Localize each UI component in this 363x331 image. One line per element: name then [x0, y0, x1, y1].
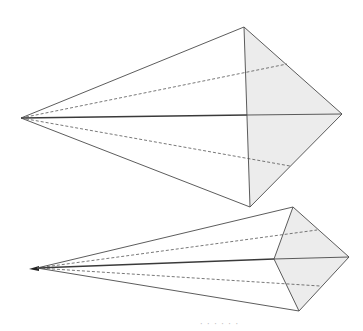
diagram-canvas: [0, 0, 363, 331]
upper-edge-apex-bottom: [21, 118, 250, 207]
lower-pyramid: [29, 207, 349, 311]
upper-axis-line: [21, 115, 247, 118]
upper-pyramid: [21, 27, 342, 207]
upper-edge-apex-top: [21, 27, 244, 118]
lower-hidden-edge-bottom: [37, 268, 320, 286]
lower-edge-apex-top: [37, 207, 293, 268]
caption-fragment: · · · · · ·: [200, 320, 239, 329]
upper-base-face: [244, 27, 342, 207]
lower-edge-apex-bottom: [37, 268, 299, 311]
